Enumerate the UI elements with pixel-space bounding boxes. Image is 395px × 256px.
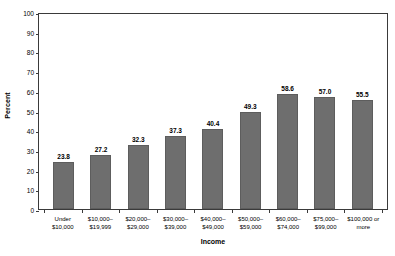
x-axis-category-labels: Under $10,000$10,000–$19,999$20,000–$29,… bbox=[38, 215, 388, 231]
bar[interactable] bbox=[128, 145, 149, 209]
y-axis-tick-label: 10 bbox=[27, 187, 34, 194]
bar-value-label: 58.6 bbox=[281, 85, 294, 92]
x-axis-tick-mark bbox=[119, 210, 120, 213]
bar-value-label: 37.3 bbox=[169, 127, 182, 134]
x-axis-tick-mark bbox=[382, 210, 383, 213]
y-axis-title: Percent bbox=[0, 0, 14, 210]
y-axis-tick-label: 0 bbox=[30, 207, 34, 214]
bar[interactable] bbox=[202, 129, 223, 209]
x-axis-category-label-line2: $59,000 bbox=[232, 223, 270, 231]
bar-slot: 40.4 bbox=[194, 14, 231, 209]
bar[interactable] bbox=[277, 94, 298, 209]
x-axis-tick-mark bbox=[344, 210, 345, 213]
bars-container: 23.827.232.337.340.449.358.657.055.5 bbox=[39, 14, 387, 209]
y-axis-tick-label: 60 bbox=[27, 89, 34, 96]
bar-value-label: 49.3 bbox=[244, 103, 257, 110]
x-axis-category-label: $10,000–$19,999 bbox=[82, 215, 120, 231]
bar[interactable] bbox=[352, 100, 373, 209]
x-axis-category-label: $50,000–$59,000 bbox=[232, 215, 270, 231]
x-axis-tick-mark bbox=[82, 210, 83, 213]
bar-slot: 32.3 bbox=[120, 14, 157, 209]
x-axis-category-label-line1: $10,000– bbox=[88, 216, 113, 222]
x-axis-tick-mark bbox=[307, 210, 308, 213]
bar[interactable] bbox=[53, 162, 74, 209]
x-axis-category-label-line2: $74,000 bbox=[269, 223, 307, 231]
y-axis-tick-label: 70 bbox=[27, 69, 34, 76]
bar-value-label: 40.4 bbox=[207, 120, 220, 127]
x-axis-category-label: Under $10,000 bbox=[44, 215, 82, 231]
bar-slot: 55.5 bbox=[344, 14, 381, 209]
x-axis-category-label: $100,000 ormore bbox=[345, 215, 383, 231]
y-axis-tick-label: 90 bbox=[27, 30, 34, 37]
x-axis-category-label: $60,000–$74,000 bbox=[269, 215, 307, 231]
bar[interactable] bbox=[314, 97, 335, 209]
x-axis-ticks bbox=[38, 210, 388, 214]
y-axis-tick-label: 40 bbox=[27, 128, 34, 135]
x-axis-category-label-line2: $49,000 bbox=[194, 223, 232, 231]
bar[interactable] bbox=[240, 112, 261, 209]
x-axis-tick-mark bbox=[194, 210, 195, 213]
bar[interactable] bbox=[165, 136, 186, 209]
bar-slot: 49.3 bbox=[232, 14, 269, 209]
x-axis-category-label-line1: $40,000– bbox=[201, 216, 226, 222]
x-axis-category-label-line1: Under $10,000 bbox=[52, 216, 74, 230]
x-axis-tick-mark bbox=[232, 210, 233, 213]
bar-value-label: 57.0 bbox=[319, 88, 332, 95]
bar-value-label: 23.8 bbox=[57, 153, 70, 160]
x-axis-tick-mark bbox=[44, 210, 45, 213]
y-axis-tick-label: 80 bbox=[27, 49, 34, 56]
x-axis-category-label: $75,000–$99,000 bbox=[307, 215, 345, 231]
x-axis-category-label-line2: $39,000 bbox=[157, 223, 195, 231]
x-axis-category-label-line1: $60,000– bbox=[276, 216, 301, 222]
y-axis-tick-label: 50 bbox=[27, 109, 34, 116]
x-axis-title: Income bbox=[38, 238, 388, 245]
bar-value-label: 55.5 bbox=[356, 91, 369, 98]
x-axis-category-label-line1: $20,000– bbox=[125, 216, 150, 222]
y-axis-title-text: Percent bbox=[4, 92, 11, 118]
bar[interactable] bbox=[90, 155, 111, 209]
x-axis-category-label: $20,000–$29,000 bbox=[119, 215, 157, 231]
y-axis-tick-label: 100 bbox=[23, 10, 34, 17]
bar-slot: 37.3 bbox=[157, 14, 194, 209]
x-axis-tick-mark bbox=[157, 210, 158, 213]
plot-area: 0102030405060708090100 23.827.232.337.34… bbox=[38, 13, 388, 210]
bar-slot: 23.8 bbox=[45, 14, 82, 209]
x-axis-category-label-line2: $19,999 bbox=[82, 223, 120, 231]
bar-value-label: 32.3 bbox=[132, 136, 145, 143]
x-axis-tick-mark bbox=[269, 210, 270, 213]
x-axis-category-label-line1: $50,000– bbox=[238, 216, 263, 222]
y-axis-tick-label: 30 bbox=[27, 148, 34, 155]
y-axis-tick-label: 20 bbox=[27, 168, 34, 175]
bar-slot: 27.2 bbox=[82, 14, 119, 209]
x-axis-category-label-line1: $100,000 or bbox=[347, 216, 379, 222]
x-axis-category-label: $40,000–$49,000 bbox=[194, 215, 232, 231]
bar-slot: 57.0 bbox=[306, 14, 343, 209]
x-axis-category-label-line2: $99,000 bbox=[307, 223, 345, 231]
x-axis-category-label-line2: $29,000 bbox=[119, 223, 157, 231]
bar-value-label: 27.2 bbox=[95, 146, 108, 153]
x-axis-category-label-line1: $75,000– bbox=[313, 216, 338, 222]
x-axis-category-label: $30,000–$39,000 bbox=[157, 215, 195, 231]
bar-slot: 58.6 bbox=[269, 14, 306, 209]
bar-chart-figure: Percent 0102030405060708090100 23.827.23… bbox=[0, 0, 395, 256]
x-axis-category-label-line2: more bbox=[345, 223, 383, 231]
x-axis-category-label-line1: $30,000– bbox=[163, 216, 188, 222]
